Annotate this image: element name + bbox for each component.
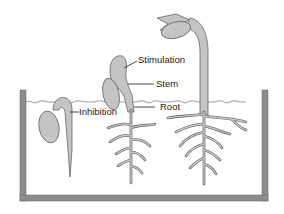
mature-seedling-roots [168, 112, 246, 184]
label-stimulation: Stimulation [138, 54, 185, 65]
container-left-wall [20, 90, 26, 201]
label-root: Root [160, 101, 180, 112]
early-seedling-seed [36, 110, 61, 145]
middle-seedling [100, 56, 155, 183]
container-right-wall [262, 90, 268, 201]
middle-seedling-roots [108, 110, 155, 183]
container-floor [20, 195, 268, 201]
mature-seedling-stem [186, 18, 208, 115]
seedling-diagram: Stimulation Stem Root Inhibition [0, 0, 284, 214]
diagram-canvas: Stimulation Stem Root Inhibition [0, 0, 284, 214]
label-stem: Stem [156, 78, 178, 89]
early-seedling [36, 98, 72, 178]
mature-seedling [157, 14, 246, 184]
label-inhibition: Inhibition [79, 106, 117, 117]
